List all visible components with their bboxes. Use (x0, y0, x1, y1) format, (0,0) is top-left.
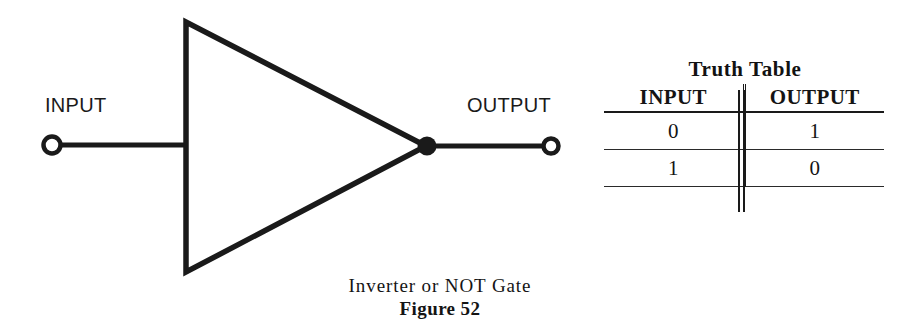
figure-caption-title: Inverter or NOT Gate (260, 276, 620, 296)
truth-table-title: Truth Table (600, 58, 890, 81)
truth-table-cell-input: 0 (604, 112, 744, 150)
figure-caption: Inverter or NOT Gate Figure 52 (260, 276, 620, 320)
output-terminal-circle-icon (544, 139, 559, 154)
input-port-label: INPUT (45, 95, 107, 115)
inverter-schematic (0, 0, 600, 300)
divider-line-right (743, 90, 745, 212)
gate-triangle-icon (186, 22, 426, 272)
divider-line-left (738, 90, 740, 212)
truth-table-cell-output: 1 (744, 112, 884, 150)
truth-table-column-divider (738, 90, 746, 212)
figure-inverter-not-gate: INPUT OUTPUT Inverter or NOT Gate Figure… (0, 0, 914, 336)
output-port-label: OUTPUT (467, 95, 551, 115)
input-terminal-circle-icon (44, 137, 61, 154)
truth-table-header-output: OUTPUT (744, 84, 884, 112)
truth-table-cell-output: 0 (744, 150, 884, 187)
figure-caption-number: Figure 52 (260, 298, 620, 320)
output-junction-dot-icon (418, 137, 437, 156)
truth-table-header-input: INPUT (604, 84, 744, 112)
truth-table-cell-input: 1 (604, 150, 744, 187)
